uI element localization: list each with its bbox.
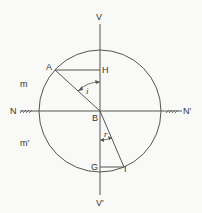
label-n-right: N′ <box>183 106 191 116</box>
refraction-diagram: V V′ N N′ A H B G I i r m m′ <box>0 0 202 213</box>
label-angle-r: r <box>104 129 108 139</box>
label-h: H <box>102 65 109 75</box>
label-angle-i: i <box>86 86 89 96</box>
label-g: G <box>91 162 98 172</box>
label-medium-m-prime: m′ <box>20 138 29 148</box>
incident-ray <box>55 70 100 111</box>
label-v-top: V <box>96 12 102 22</box>
angle-i-arrow-right <box>95 80 100 84</box>
label-i-point: I <box>124 164 127 174</box>
diagram-svg: V V′ N N′ A H B G I i r m m′ <box>0 0 202 213</box>
label-v-bottom: V′ <box>96 198 104 208</box>
label-medium-m: m <box>20 79 28 89</box>
label-a: A <box>46 62 52 72</box>
label-b: B <box>92 113 98 123</box>
angle-i-arrow-left <box>78 86 83 91</box>
label-n-left: N <box>10 106 17 116</box>
